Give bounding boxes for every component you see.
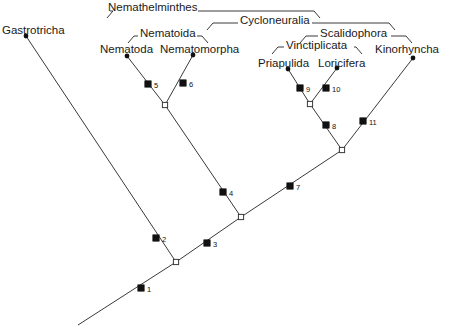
internal-node-node-vinctiplicata (307, 101, 312, 106)
character-mark-number-6: 6 (189, 81, 193, 89)
clade-bracket-right-hook-nemathelminthes (314, 11, 320, 18)
character-mark-number-2: 2 (162, 236, 166, 244)
clade-label-vinctiplicata: Vinctiplicata (286, 40, 347, 52)
character-mark-square-4 (220, 189, 226, 195)
internal-node-node-nematoida (162, 102, 167, 107)
character-mark-square-9 (297, 85, 303, 91)
character-mark-square-1 (138, 285, 144, 291)
clade-bracket-left-hook-cycloneuralia (207, 23, 213, 30)
clade-label-scalidophora: Scalidophora (320, 28, 387, 40)
character-mark-number-5: 5 (154, 82, 158, 90)
taxon-label-nematomorpha: Nematomorpha (160, 44, 239, 56)
branch-line-nemathel-to-nematoida (165, 105, 241, 217)
clade-label-cycloneuralia: Cycloneuralia (240, 15, 310, 27)
clade-bracket-right-hook-cycloneuralia (389, 23, 395, 30)
clade-bracket-left-hook-nematoida (128, 36, 134, 43)
clade-bracket-right-hook-vinctiplicata (356, 47, 362, 54)
character-mark-squares-group (138, 80, 366, 291)
clade-label-nematoida: Nematoida (140, 28, 196, 40)
character-mark-square-8 (323, 122, 329, 128)
branch-lines-group (26, 36, 413, 325)
taxon-label-priapulida: Priapulida (258, 58, 309, 70)
phylogenetic-tree-figure: GastrotrichaNematodaNematomorphaPriapuli… (0, 0, 451, 336)
character-mark-square-11 (360, 118, 366, 124)
internal-node-node-nemathel (238, 214, 243, 219)
character-mark-number-9: 9 (306, 86, 310, 94)
taxon-label-nematoda: Nematoda (100, 44, 153, 56)
clade-bracket-left-hook-vinctiplicata (272, 47, 278, 54)
internal-node-node-basal (173, 259, 178, 264)
character-mark-square-2 (153, 235, 159, 241)
character-mark-number-8: 8 (332, 123, 336, 131)
character-mark-square-6 (180, 80, 186, 86)
taxon-label-loricifera: Loricifera (318, 58, 365, 70)
branch-line-root-stem (78, 262, 176, 325)
character-mark-number-11: 11 (369, 119, 377, 127)
internal-node-markers-group (162, 101, 344, 264)
taxon-label-kinorhyncha: Kinorhyncha (375, 44, 439, 56)
tip-dot-kinorhyncha (411, 56, 416, 61)
character-mark-number-1: 1 (147, 286, 151, 294)
taxon-label-gastrotricha: Gastrotricha (2, 25, 65, 37)
branch-line-cyclo-to-kinorhyncha (342, 58, 413, 150)
internal-node-node-cycloneuralia (339, 147, 344, 152)
character-mark-number-7: 7 (296, 184, 300, 192)
character-mark-square-10 (323, 85, 329, 91)
clade-bracket-right-hook-scalidophora (406, 36, 412, 43)
character-mark-square-5 (145, 81, 151, 87)
character-mark-square-7 (287, 183, 293, 189)
character-mark-number-4: 4 (229, 190, 233, 198)
character-mark-number-10: 10 (332, 86, 340, 94)
character-mark-square-3 (204, 240, 210, 246)
clade-bracket-right-hook-nematoida (202, 36, 208, 43)
branch-line-basal-to-gastrotricha (26, 36, 176, 262)
clade-label-nemathelminthes: Nemathelminthes (108, 2, 197, 14)
character-mark-number-3: 3 (213, 241, 217, 249)
